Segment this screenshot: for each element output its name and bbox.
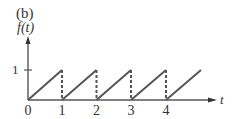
x-axis-label: t (220, 93, 224, 106)
x-tick-label-2: 2 (91, 104, 103, 118)
y-axis-label: f(t) (17, 21, 34, 35)
x-tick-label-4: 4 (160, 104, 172, 118)
x-tick-label-0: 0 (22, 104, 34, 118)
x-tick-label-3: 3 (125, 104, 137, 118)
y-axis-arrow-icon (26, 36, 31, 44)
sawtooth-plot (0, 0, 234, 119)
sawtooth-ramps (28, 70, 201, 100)
x-tick-label-1: 1 (56, 104, 68, 118)
y-tick-label-1: 1 (12, 63, 19, 76)
sawtooth-figure: (b) f(t) t 1 0 1 2 3 4 (0, 0, 234, 119)
x-axis-arrow-icon (208, 98, 217, 103)
panel-label: (b) (16, 6, 34, 21)
